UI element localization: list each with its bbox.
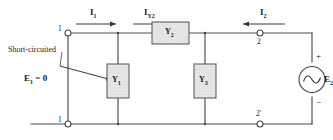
terminal-label-1: 1 [58, 25, 62, 33]
component-label-y3: Y3 [199, 76, 208, 86]
node-terminal-1p [65, 121, 71, 127]
terminal-label-2p: 2' [256, 110, 261, 118]
component-label-y1: Y1 [112, 76, 121, 86]
short-circuited-note: Short-circuited [8, 46, 56, 54]
source-minus-sign: − [316, 98, 321, 107]
current-label-iy2: IY2 [144, 8, 155, 19]
current-label-i1: I1 [90, 8, 97, 19]
current-label-i2: I2 [260, 8, 267, 19]
component-label-y2: Y2 [165, 28, 174, 38]
source-plus-sign: + [316, 52, 321, 61]
input-voltage-label: E1 = 0 [24, 74, 47, 85]
terminal-label-1p: 1 [58, 116, 62, 124]
wires [31, 33, 312, 124]
node-terminal-2p [257, 121, 263, 127]
source-label-e2: E2 [324, 75, 333, 86]
junction-dots [117, 32, 206, 125]
node-terminal-2 [257, 30, 263, 36]
node-terminal-1 [65, 30, 71, 36]
ac-source-symbol [299, 67, 325, 93]
terminal-label-2: 2 [257, 38, 261, 46]
terminal-nodes [65, 30, 263, 127]
